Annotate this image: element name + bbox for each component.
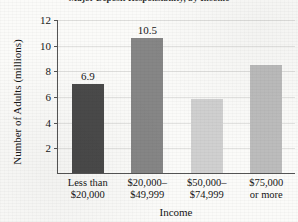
y-tick-label: 4 (46, 117, 52, 129)
y-tick-label: 2 (46, 142, 52, 154)
x-category-label-line: $74,999 (187, 189, 226, 201)
x-category-label: $50,000–$74,999 (187, 177, 226, 200)
bar (191, 99, 223, 173)
x-category-label-line: $20,000– (128, 177, 167, 189)
y-tick-mark (54, 123, 58, 124)
y-tick-mark (54, 97, 58, 98)
x-category-label-line: $20,000 (68, 189, 108, 201)
x-category-label-line: $75,000 (249, 177, 283, 189)
y-tick-label: 8 (46, 65, 52, 77)
bar-value-label: 6.9 (81, 70, 95, 82)
x-category-label-line: Less than (68, 177, 108, 189)
y-tick-label: 12 (40, 14, 51, 26)
y-tick-mark (54, 148, 58, 149)
bar-value-label: 10.5 (138, 24, 157, 36)
y-tick-mark (54, 20, 58, 21)
y-tick-label: 10 (40, 40, 51, 52)
x-category-label-line: $49,999 (128, 189, 167, 201)
y-tick-label: 6 (46, 91, 52, 103)
bar: 10.5 (131, 38, 163, 173)
x-axis-title: Income (57, 206, 295, 218)
bar (250, 65, 282, 173)
y-tick-mark (54, 71, 58, 72)
bar: 6.9 (72, 84, 104, 173)
gridline (58, 46, 295, 47)
gridline (58, 20, 295, 21)
plot-area: 246810126.9Less than$20,00010.5$20,000–$… (57, 20, 295, 174)
x-category-label: Less than$20,000 (68, 177, 108, 200)
x-category-label-line: $50,000– (187, 177, 226, 189)
y-tick-mark (54, 46, 58, 47)
x-category-label-line: or more (249, 189, 283, 201)
x-category-label: $20,000–$49,999 (128, 177, 167, 200)
x-category-label: $75,000or more (249, 177, 283, 200)
y-axis-title: Number of Adults (millions) (11, 27, 23, 177)
chart-title: Major Deposit Responsibility, by Income (0, 0, 298, 3)
bar-chart-figure: Major Deposit Responsibility, by Income … (0, 0, 298, 222)
